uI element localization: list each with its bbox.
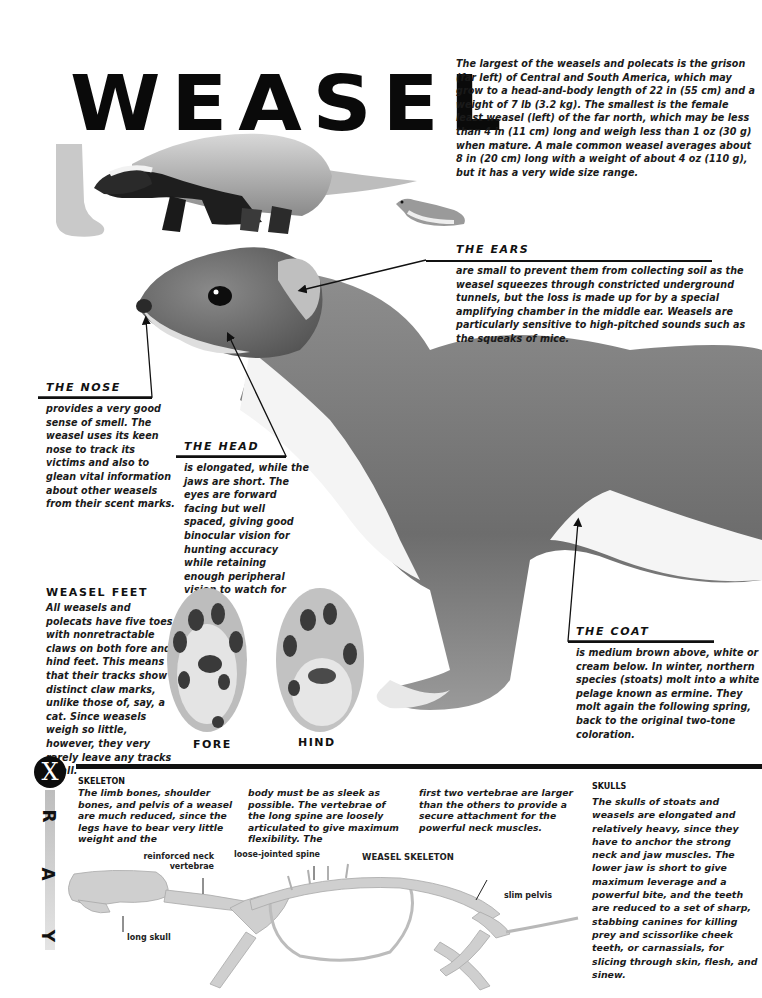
skeleton-text-col3: first two vertebrae are larger than the …	[419, 787, 579, 833]
label-loose-jointed-spine: loose-jointed spine	[234, 850, 320, 860]
hind-label: HIND	[298, 736, 336, 749]
skeleton-text-col2: body must be as sleek as possible. The v…	[248, 787, 400, 845]
label-reinforced-neck: reinforced neck vertebrae	[136, 852, 214, 872]
fore-label: FORE	[193, 738, 232, 751]
skeleton-heading: SKELETON	[78, 777, 125, 786]
xray-section-divider	[76, 764, 762, 769]
skulls-heading: SKULLS	[592, 782, 626, 791]
xray-side-letter-r: R	[39, 809, 59, 822]
xray-badge-letter: X	[41, 758, 58, 786]
diagram-title: WEASEL SKELETON	[362, 852, 454, 862]
xray-badge: X	[34, 756, 66, 788]
skeleton-text-col1: The limb bones, shoulder bones, and pelv…	[78, 787, 240, 845]
label-long-skull: long skull	[127, 933, 171, 943]
fore-foot-illustration	[162, 584, 252, 734]
skulls-text: The skulls of stoats and weasels are elo…	[592, 795, 758, 981]
xray-side-letter-y: Y	[38, 930, 58, 942]
hind-foot-illustration	[272, 584, 368, 734]
feet-text: All weasels and polecats have five toes …	[46, 601, 178, 778]
label-slim-pelvis: slim pelvis	[504, 891, 552, 901]
feet-heading: WEASEL FEET	[46, 586, 148, 599]
xray-side-letter-a: A	[38, 867, 58, 880]
weasel-skeleton-diagram	[60, 860, 580, 998]
